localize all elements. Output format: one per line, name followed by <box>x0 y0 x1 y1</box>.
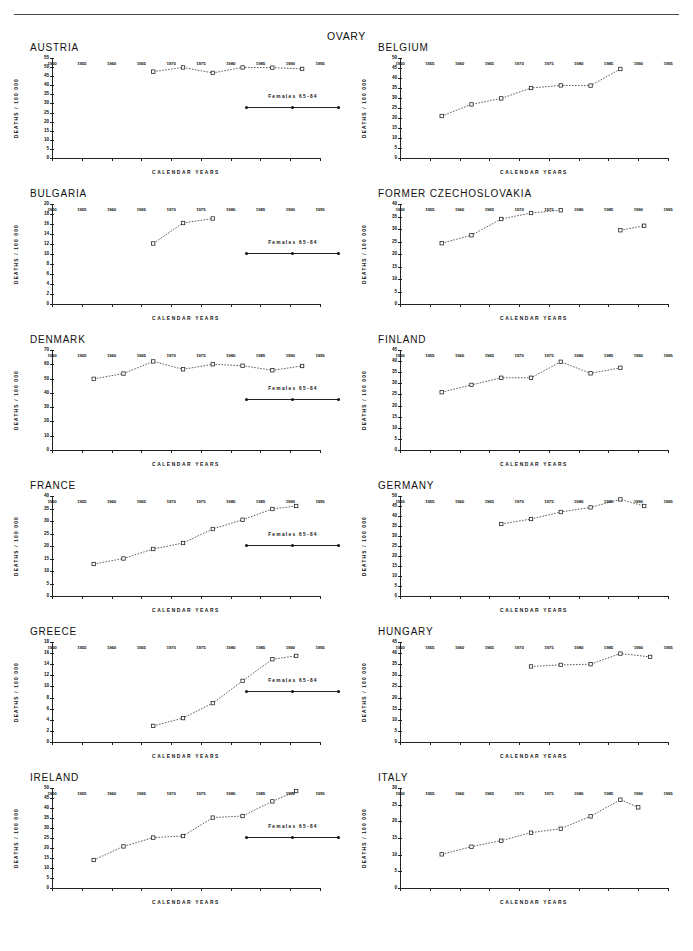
x-axis-label: CALENDAR YEARS <box>152 462 220 467</box>
data-point-marker <box>152 836 155 839</box>
data-point-marker <box>271 658 274 661</box>
y-axis-label: DEATHS / 100 000 <box>14 808 19 868</box>
chart-title: IRELAND <box>30 772 79 783</box>
data-point-marker <box>181 368 184 371</box>
x-axis <box>400 596 668 597</box>
y-axis-tick-label: 25 <box>392 684 397 689</box>
x-axis-tick <box>260 888 261 891</box>
x-axis-tick <box>430 742 431 745</box>
figure-page: OVARY AUSTRIA051015202530354045505519501… <box>0 0 693 951</box>
x-axis-tick <box>608 596 609 599</box>
x-axis-tick <box>260 158 261 161</box>
data-point-marker <box>559 84 562 87</box>
data-point-marker <box>470 845 473 848</box>
data-point-marker <box>241 364 244 367</box>
chart-title: FINLAND <box>378 334 426 345</box>
x-axis-tick <box>400 304 401 307</box>
data-point-marker <box>211 71 214 74</box>
legend-marker <box>337 544 340 547</box>
x-axis-tick <box>201 158 202 161</box>
y-axis-tick-label: 30 <box>392 381 397 386</box>
y-axis-tick-label: 10 <box>392 136 397 141</box>
x-axis-tick <box>430 158 431 161</box>
y-axis-tick-label: 0 <box>395 594 397 599</box>
data-point-marker <box>92 858 95 861</box>
x-axis-tick <box>638 304 639 307</box>
data-point-marker <box>619 798 622 801</box>
x-axis-tick <box>400 742 401 745</box>
x-axis-tick <box>400 596 401 599</box>
y-axis-tick-label: 55 <box>44 56 49 61</box>
x-axis-tick <box>489 888 490 891</box>
x-axis-tick <box>201 450 202 453</box>
y-axis-tick-label: 8 <box>47 696 49 701</box>
y-axis-tick-label: 30 <box>392 227 397 232</box>
y-axis-tick-label: 35 <box>44 92 49 97</box>
data-point-marker <box>589 663 592 666</box>
data-point-marker <box>589 372 592 375</box>
plot-area: 0510152025303540455019501955196019651970… <box>400 58 668 162</box>
x-axis-tick <box>231 158 232 161</box>
data-point-marker <box>440 391 443 394</box>
chart-title: GERMANY <box>378 480 434 491</box>
y-axis-tick-label: 2 <box>47 292 49 297</box>
x-axis-tick <box>141 304 142 307</box>
data-point-marker <box>211 816 214 819</box>
x-axis-label: CALENDAR YEARS <box>500 608 568 613</box>
y-axis-tick-label: 0 <box>395 448 397 453</box>
data-point-marker <box>181 221 184 224</box>
data-point-marker <box>122 557 125 560</box>
data-point-marker <box>500 522 503 525</box>
x-axis-tick <box>231 304 232 307</box>
x-axis-tick <box>231 450 232 453</box>
y-axis-tick-label: 40 <box>392 202 397 207</box>
x-axis-tick <box>290 888 291 891</box>
x-axis-tick <box>489 742 490 745</box>
x-axis-tick <box>141 742 142 745</box>
x-axis-tick <box>52 304 53 307</box>
legend-label: Females 65-84 <box>238 824 348 829</box>
x-axis-tick <box>668 888 669 891</box>
legend-marker <box>291 544 294 547</box>
y-axis-tick-label: 45 <box>392 640 397 645</box>
x-axis-tick <box>460 158 461 161</box>
x-axis-tick <box>201 596 202 599</box>
data-point-marker <box>559 663 562 666</box>
legend: Females 65-84 <box>238 94 348 116</box>
y-axis-tick-label: 8 <box>47 262 49 267</box>
y-axis-label: DEATHS / 100 000 <box>362 78 367 138</box>
y-axis-tick-label: 5 <box>395 584 397 589</box>
x-axis-tick <box>320 742 321 745</box>
data-point-marker <box>92 562 95 565</box>
x-axis-tick <box>231 596 232 599</box>
y-axis-tick-label: 15 <box>44 856 49 861</box>
y-axis-tick-label: 18 <box>44 640 49 645</box>
chart-panel-germany: GERMANY051015202530354045501950195519601… <box>356 480 686 626</box>
data-point-marker <box>152 360 155 363</box>
y-axis-tick-label: 45 <box>44 796 49 801</box>
x-axis-tick <box>489 304 490 307</box>
data-point-marker <box>589 84 592 87</box>
data-point-marker <box>122 372 125 375</box>
x-axis-tick <box>489 450 490 453</box>
y-axis-tick-label: 50 <box>392 56 397 61</box>
y-axis-label: DEATHS / 100 000 <box>14 224 19 284</box>
legend-label: Females 65-84 <box>238 532 348 537</box>
x-axis-tick <box>141 450 142 453</box>
y-axis-tick-label: 14 <box>44 662 49 667</box>
y-axis-tick-label: 15 <box>392 126 397 131</box>
x-axis-tick <box>549 450 550 453</box>
legend: Females 65-84 <box>238 824 348 846</box>
data-point-marker <box>589 506 592 509</box>
chart-row: FRANCE0510152025303540195019551960196519… <box>0 480 693 626</box>
legend-label: Females 65-84 <box>238 678 348 683</box>
x-axis-tick <box>231 742 232 745</box>
x-axis-tick <box>112 304 113 307</box>
x-axis <box>52 450 320 451</box>
legend-marker <box>337 398 340 401</box>
x-axis-tick <box>519 304 520 307</box>
x-axis-tick <box>668 742 669 745</box>
y-axis-tick-label: 20 <box>392 696 397 701</box>
y-axis-tick-label: 25 <box>392 392 397 397</box>
y-axis-tick-label: 0 <box>47 740 49 745</box>
